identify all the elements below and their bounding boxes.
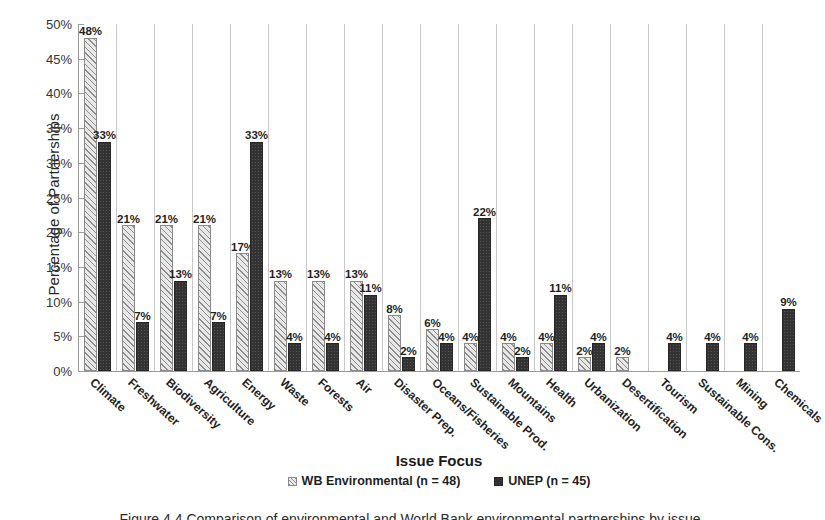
y-axis-tick-label: 15% — [46, 260, 79, 273]
y-axis-tick-label: 0% — [53, 365, 79, 378]
bar-group-bars: 8%2% — [383, 24, 420, 371]
bar[interactable]: 21% — [122, 225, 135, 371]
bar-group-bars: 21%13% — [155, 24, 192, 371]
bar[interactable]: 21% — [198, 225, 211, 371]
bar[interactable]: 48% — [84, 38, 97, 371]
bar-value-label: 4% — [438, 332, 455, 344]
bar[interactable]: 2% — [402, 357, 415, 371]
bar[interactable]: 2% — [578, 357, 591, 371]
bar-group: 4%22%Sustainable Prod. — [459, 24, 497, 371]
bar-value-label: 2% — [514, 346, 531, 358]
bar[interactable]: 4% — [440, 343, 453, 371]
y-axis-tick-label: 25% — [46, 191, 79, 204]
bar-group: 4%11%Health — [535, 24, 573, 371]
bar-group-bars: 4%22% — [459, 24, 496, 371]
bar-value-label: 21% — [193, 214, 216, 226]
bar-group-bars: 21%7% — [193, 24, 230, 371]
plot-area: 0%5%10%15%20%25%30%35%40%45%50% 48%33%Cl… — [78, 24, 800, 372]
bar-value-label: 13% — [345, 269, 368, 281]
bar-group-bars: 13%11% — [345, 24, 382, 371]
bar[interactable]: 4% — [464, 343, 477, 371]
bar-group-bars: 4% — [725, 24, 762, 371]
bar-group-bars: 2% — [611, 24, 648, 371]
y-axis-tick-label: 50% — [46, 18, 79, 31]
bar[interactable]: 22% — [478, 218, 491, 371]
y-axis-tick-label: 5% — [53, 330, 79, 343]
bar-group: 6%4%Oceans/Fisheries — [421, 24, 459, 371]
y-axis-tick-label: 20% — [46, 226, 79, 239]
bar-value-label: 2% — [400, 346, 417, 358]
bar-group: 4%Sustainable Cons. — [687, 24, 725, 371]
bar[interactable]: 21% — [160, 225, 173, 371]
bar-value-label: 2% — [576, 346, 593, 358]
bar[interactable]: 4% — [592, 343, 605, 371]
bar-group-bars: 13%4% — [307, 24, 344, 371]
bar[interactable]: 13% — [274, 281, 287, 371]
bar-group-bars: 9% — [763, 24, 800, 371]
legend-label-wb-environmental: WB Environmental (n = 48) — [302, 474, 461, 488]
bar[interactable]: 33% — [250, 142, 263, 371]
y-axis-tick-label: 35% — [46, 122, 79, 135]
legend-item-wb-environmental: WB Environmental (n = 48) — [288, 474, 461, 488]
bar-group: 4%Tourism — [649, 24, 687, 371]
bar[interactable]: 9% — [782, 309, 795, 371]
bar[interactable]: 2% — [516, 357, 529, 371]
bar-group: 9%Chemicals — [763, 24, 800, 371]
bar-value-label: 6% — [424, 318, 441, 330]
bar[interactable]: 4% — [502, 343, 515, 371]
bar-group-bars: 6%4% — [421, 24, 458, 371]
bar-value-label: 2% — [614, 346, 631, 358]
bar-value-label: 11% — [549, 283, 571, 295]
bar-value-label: 4% — [324, 332, 341, 344]
bar-group: 2%Desertification — [611, 24, 649, 371]
bar-group: 17%33%Energy — [231, 24, 269, 371]
bar-group-bars: 48%33% — [79, 24, 116, 371]
bar-value-label: 21% — [155, 214, 178, 226]
bar[interactable]: 4% — [540, 343, 553, 371]
bar[interactable]: 4% — [706, 343, 719, 371]
x-axis-tick-label: Waste — [277, 376, 311, 408]
bar[interactable]: 8% — [388, 315, 401, 371]
bar[interactable]: 13% — [312, 281, 325, 371]
bar-group: 21%13%Biodiversity — [155, 24, 193, 371]
bar-value-label: 4% — [286, 332, 303, 344]
bar[interactable]: 4% — [668, 343, 681, 371]
bar[interactable]: 4% — [326, 343, 339, 371]
y-axis-tick-label: 30% — [46, 156, 79, 169]
bar[interactable]: 7% — [212, 322, 225, 371]
bar-group: 4%2%Mountains — [497, 24, 535, 371]
bar[interactable]: 4% — [744, 343, 757, 371]
x-axis-tick-label: Air — [353, 376, 373, 396]
bar[interactable]: 13% — [174, 281, 187, 371]
bar-group: 13%11%Air — [345, 24, 383, 371]
bar[interactable]: 4% — [288, 343, 301, 371]
bar-groups: 48%33%Climate21%7%Freshwater21%13%Biodiv… — [79, 24, 800, 371]
bar[interactable]: 11% — [364, 295, 377, 371]
bar[interactable]: 2% — [616, 357, 629, 371]
bar-value-label: 4% — [462, 332, 479, 344]
bar-group-bars: 21%7% — [117, 24, 154, 371]
y-axis-tick-mark — [79, 371, 84, 372]
bar[interactable]: 17% — [236, 253, 249, 371]
bar-group: 21%7%Freshwater — [117, 24, 155, 371]
bar-value-label: 13% — [169, 269, 192, 281]
bar-value-label: 33% — [93, 130, 116, 142]
bar-value-label: 4% — [704, 332, 721, 344]
bar-group: 4%Mining — [725, 24, 763, 371]
chart-legend: WB Environmental (n = 48) UNEP (n = 45) — [78, 474, 800, 488]
bar[interactable]: 7% — [136, 322, 149, 371]
bar-value-label: 13% — [307, 269, 330, 281]
bar-group-bars: 2%4% — [573, 24, 610, 371]
bar-group: 2%4%Urbanization — [573, 24, 611, 371]
bar[interactable]: 33% — [98, 142, 111, 371]
bar-value-label: 4% — [500, 332, 517, 344]
bar[interactable]: 11% — [554, 295, 567, 371]
bar-value-label: 4% — [666, 332, 683, 344]
bar-value-label: 22% — [473, 207, 496, 219]
y-axis-tick-label: 40% — [46, 87, 79, 100]
x-axis-tick-label: Health — [543, 376, 578, 409]
bar-group-bars: 4%2% — [497, 24, 534, 371]
bar[interactable]: 6% — [426, 329, 439, 371]
x-axis-tick-label: Climate — [87, 376, 127, 414]
dark-square-icon — [494, 477, 503, 486]
